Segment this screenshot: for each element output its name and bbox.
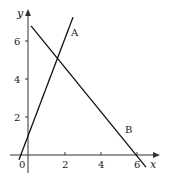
y-axis-label: y — [16, 7, 24, 20]
line-b — [31, 26, 146, 167]
line-a — [19, 17, 73, 160]
y-tick-label-2: 2 — [14, 112, 20, 123]
x-tick-label-4: 4 — [98, 159, 104, 170]
line-b-label: B — [125, 124, 132, 135]
x-tick-label-6: 6 — [134, 159, 140, 170]
line-a-label: A — [70, 27, 79, 38]
graph: 0 2 4 6 2 4 6 x y A B — [0, 0, 169, 182]
x-axis-label: x — [150, 158, 157, 171]
y-axis-arrow-icon — [25, 9, 31, 16]
origin-label: 0 — [19, 159, 25, 170]
y-tick-label-4: 4 — [14, 74, 20, 85]
x-tick-label-2: 2 — [62, 159, 68, 170]
y-tick-label-6: 6 — [14, 36, 20, 47]
